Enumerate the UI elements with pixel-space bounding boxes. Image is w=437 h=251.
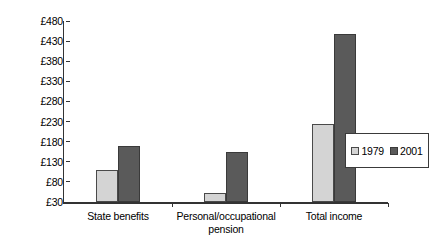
legend-entry-1979: 1979 [351, 145, 384, 157]
bar-chart: £480£430£380£330£280£230£180£130£80£30 S… [0, 0, 437, 251]
x-tick [280, 203, 281, 207]
y-tick: £230 [0, 116, 70, 128]
bar-group [312, 21, 356, 202]
y-tick: £180 [0, 136, 70, 148]
y-tick: £480 [0, 15, 70, 27]
bar-2001 [226, 152, 248, 202]
bar-1979 [312, 124, 334, 202]
chart-legend: 1979 2001 [345, 133, 429, 168]
bar-group [204, 21, 248, 202]
y-tick-label: £430 [40, 35, 66, 47]
legend-swatch-1979 [351, 147, 359, 155]
y-tick: £430 [0, 35, 70, 47]
y-tick: £130 [0, 156, 70, 168]
bar-2001 [118, 146, 140, 202]
y-tick-label: £480 [40, 15, 66, 27]
y-tick-label: £330 [40, 75, 66, 87]
category-label: Personal/occupational pension [172, 210, 280, 236]
legend-label-2001: 2001 [400, 145, 423, 157]
bar-1979 [96, 170, 118, 202]
plot-area [64, 21, 388, 202]
legend-swatch-2001 [390, 147, 398, 155]
y-tick: £30 [0, 196, 70, 208]
x-axis-line [63, 202, 388, 204]
y-tick-label: £80 [46, 176, 66, 188]
category-label: State benefits [64, 210, 172, 223]
y-tick-label: £230 [40, 116, 66, 128]
bar-1979 [204, 193, 226, 202]
bar-group [96, 21, 140, 202]
y-tick: £280 [0, 95, 70, 107]
y-tick: £80 [0, 176, 70, 188]
y-tick-label: £180 [40, 136, 66, 148]
legend-label-1979: 1979 [361, 145, 384, 157]
bar-2001 [334, 34, 356, 202]
y-tick: £380 [0, 55, 70, 67]
category-label: Total income [280, 210, 388, 223]
y-tick-label: £280 [40, 95, 66, 107]
y-tick: £330 [0, 75, 70, 87]
x-tick-end [388, 203, 389, 207]
y-tick-label: £130 [40, 156, 66, 168]
legend-entry-2001: 2001 [390, 145, 423, 157]
x-tick [172, 203, 173, 207]
y-tick-label: £380 [40, 55, 66, 67]
